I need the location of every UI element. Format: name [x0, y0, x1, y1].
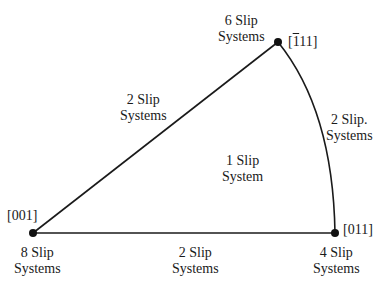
slip-interior-bottom: System — [222, 169, 263, 185]
slip-edge-bottom-bottom: Systems — [172, 261, 219, 277]
slip-label-edge-011-111: 2 Slip. Systems — [326, 112, 373, 144]
slip-edge-arc-top: 2 Slip. — [326, 112, 373, 128]
slip-label-111: 6 Slip Systems — [218, 13, 265, 45]
vertex-011-dot — [331, 229, 339, 237]
slip-label-edge-001-011: 2 Slip Systems — [172, 245, 219, 277]
pole-label-001: [001] — [7, 208, 37, 224]
slip-001-top: 8 Slip — [14, 245, 61, 261]
edge-001-111-line — [33, 42, 278, 233]
vertex-111-dot — [274, 38, 282, 46]
slip-interior-top: 1 Slip — [222, 153, 263, 169]
slip-edge-arc-bottom: Systems — [326, 128, 373, 144]
pole-label-011: [011] — [343, 222, 373, 238]
slip-111-bottom: Systems — [218, 29, 265, 45]
slip-label-interior: 1 Slip System — [222, 153, 263, 185]
pole-111-rest: 11] — [299, 34, 317, 49]
slip-edge-left-bottom: Systems — [120, 108, 167, 124]
slip-edge-left-top: 2 Slip — [120, 92, 167, 108]
pole-label-111: [111] — [288, 34, 317, 50]
slip-label-011: 4 Slip Systems — [313, 245, 360, 277]
slip-111-top: 6 Slip — [218, 13, 265, 29]
slip-label-edge-001-111: 2 Slip Systems — [120, 92, 167, 124]
vertex-001-dot — [29, 229, 37, 237]
slip-011-top: 4 Slip — [313, 245, 360, 261]
slip-011-bottom: Systems — [313, 261, 360, 277]
slip-label-001: 8 Slip Systems — [14, 245, 61, 277]
slip-001-bottom: Systems — [14, 261, 61, 277]
slip-edge-bottom-top: 2 Slip — [172, 245, 219, 261]
